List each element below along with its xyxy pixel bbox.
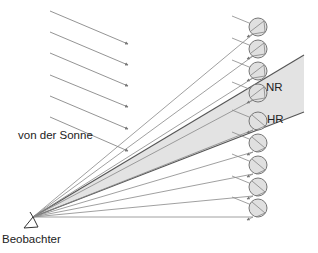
sun-ray-arrow [50, 11, 128, 44]
sun-ray-arrow [50, 32, 128, 65]
secondary-rainbow-label: NR [266, 81, 283, 93]
rainbow-diagram [0, 0, 318, 253]
sun-label: von der Sonne [18, 129, 93, 141]
sun-ray-arrow [50, 75, 128, 107]
sun-ray-arrow [50, 53, 128, 86]
sun-ray-arrow [50, 96, 128, 129]
raindrop [33, 132, 267, 217]
observer-label: Beobachter [2, 233, 61, 245]
primary-rainbow-label: HR [267, 113, 284, 125]
